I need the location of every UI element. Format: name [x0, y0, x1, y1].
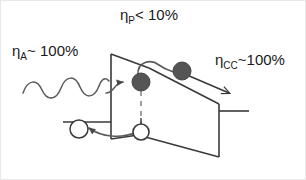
label-separation-efficiency: ηP< 10% — [120, 7, 178, 26]
band-diagram-canvas — [1, 1, 306, 180]
absorption-arrow — [106, 82, 123, 93]
conduction-band-left-facet-top — [111, 54, 149, 68]
electron-generated-icon — [132, 73, 150, 91]
hole-icon — [133, 124, 149, 140]
label-charge-collection-efficiency: ηCC~100% — [215, 52, 285, 71]
eta-p-subscript: P — [128, 15, 135, 26]
eta-p-relation: < 10% — [135, 6, 178, 23]
eta-a-relation: ~ 100% — [27, 42, 78, 59]
hole-transport-arrow — [89, 128, 137, 136]
eta-a-subscript: A — [20, 51, 27, 62]
electron-transported-icon — [173, 62, 191, 80]
eta-cc-subscript: CC — [223, 60, 237, 71]
photon-sine-wave — [23, 78, 109, 98]
valence-band-edge — [138, 135, 219, 157]
hole-at-left-contact-icon — [70, 120, 88, 138]
band-diagram-figure: ηP< 10% ηA~ 100% ηCC~100% — [0, 0, 306, 180]
eta-cc-relation: ~100% — [238, 51, 285, 68]
label-absorption-efficiency: ηA~ 100% — [12, 43, 78, 62]
